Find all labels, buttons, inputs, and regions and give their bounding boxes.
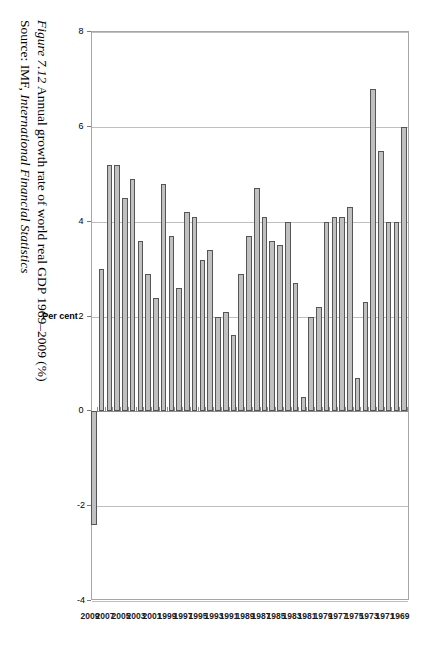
bar-1987 [262, 217, 268, 411]
category-tick [136, 407, 137, 411]
category-tick [244, 407, 245, 411]
figure-number: Figure 7.12 [35, 20, 50, 83]
value-tick-mark [87, 505, 91, 506]
gridline-6 [92, 127, 408, 128]
category-tick [360, 407, 361, 411]
rotated-figure-container: 86420-2-4 Per cent 196919711973197519771… [0, 0, 429, 659]
bar-1979 [324, 222, 330, 412]
category-tick [252, 407, 253, 411]
category-tick [205, 407, 206, 411]
category-tick [97, 407, 98, 411]
category-tick [376, 407, 377, 411]
bar-1977 [339, 217, 345, 411]
category-tick [407, 407, 408, 411]
value-tick-label-neg4: -4 [77, 595, 85, 605]
bar-1991 [231, 335, 237, 411]
category-tick [120, 407, 121, 411]
category-tick [213, 407, 214, 411]
bar-1978 [332, 217, 338, 411]
bar-1993 [215, 317, 221, 412]
value-tick-mark [87, 126, 91, 127]
category-tick [267, 407, 268, 411]
bar-2000 [161, 184, 167, 412]
bar-1994 [207, 250, 213, 411]
bar-1995 [200, 260, 206, 412]
category-tick [174, 407, 175, 411]
bar-2006 [114, 165, 120, 412]
bar-1990 [238, 274, 244, 412]
value-tick-mark [87, 316, 91, 317]
bar-1998 [176, 288, 182, 411]
value-tick-label-8: 8 [78, 26, 83, 36]
bar-1969 [401, 127, 407, 412]
bar-1985 [277, 245, 283, 411]
source-prefix: Source: [18, 20, 33, 61]
bar-1974 [363, 302, 369, 411]
gridline-4 [92, 222, 408, 223]
category-tick [283, 407, 284, 411]
category-tick [190, 407, 191, 411]
category-tick [384, 407, 385, 411]
bar-2009 [91, 411, 97, 525]
value-tick-mark [87, 31, 91, 32]
caption-title-text: Annual growth rate of world real GDP 196… [35, 86, 50, 382]
category-tick [337, 407, 338, 411]
figure-caption: Figure 7.12 Annual growth rate of world … [17, 20, 51, 640]
bar-1984 [285, 222, 291, 412]
bar-1976 [347, 207, 353, 411]
category-tick [392, 407, 393, 411]
value-tick-mark [87, 221, 91, 222]
category-tick [236, 407, 237, 411]
category-tick [314, 407, 315, 411]
figure-page: 86420-2-4 Per cent 196919711973197519771… [0, 0, 429, 659]
bar-2007 [107, 165, 113, 412]
category-tick [345, 407, 346, 411]
bar-1980 [316, 307, 322, 411]
category-tick [353, 407, 354, 411]
bar-2004 [130, 179, 136, 411]
value-axis-title: Per cent [55, 31, 65, 600]
caption-line-title: Figure 7.12 Annual growth rate of world … [34, 20, 51, 640]
value-tick-label-0: 0 [78, 405, 83, 415]
category-tick [368, 407, 369, 411]
category-tick [275, 407, 276, 411]
category-tick [260, 407, 261, 411]
value-tick-label-4: 4 [78, 216, 83, 226]
category-tick [306, 407, 307, 411]
value-tick-mark [87, 410, 91, 411]
value-tick-label-2: 2 [78, 311, 83, 321]
category-axis: 1969197119731975197719791981198319851987… [91, 602, 409, 640]
bar-2005 [122, 198, 128, 411]
category-tick [198, 407, 199, 411]
bar-1973 [370, 89, 376, 411]
category-tick [151, 407, 152, 411]
bar-1999 [169, 236, 175, 411]
bar-1989 [246, 236, 252, 411]
chart [91, 31, 409, 600]
category-tick [322, 407, 323, 411]
source-organisation: IMF, [18, 65, 33, 91]
gridline-0 [92, 411, 408, 412]
bar-2002 [145, 274, 151, 412]
caption-line-source: Source: IMF, International Financial Sta… [17, 20, 34, 640]
category-tick [143, 407, 144, 411]
bar-2008 [99, 269, 105, 411]
value-tick-mark [87, 600, 91, 601]
bar-1983 [293, 283, 299, 411]
category-tick [112, 407, 113, 411]
bar-1988 [254, 188, 260, 411]
category-tick [298, 407, 299, 411]
bar-1970 [394, 222, 400, 412]
bar-2001 [153, 298, 159, 412]
category-tick [167, 407, 168, 411]
bar-2003 [138, 241, 144, 412]
category-tick [291, 407, 292, 411]
category-tick [229, 407, 230, 411]
category-tick [221, 407, 222, 411]
plot-area [91, 31, 409, 600]
value-tick-label-6: 6 [78, 121, 83, 131]
gridline-neg2 [92, 506, 408, 507]
category-tick [128, 407, 129, 411]
bar-1971 [386, 222, 392, 412]
value-tick-label-neg2: -2 [77, 500, 85, 510]
